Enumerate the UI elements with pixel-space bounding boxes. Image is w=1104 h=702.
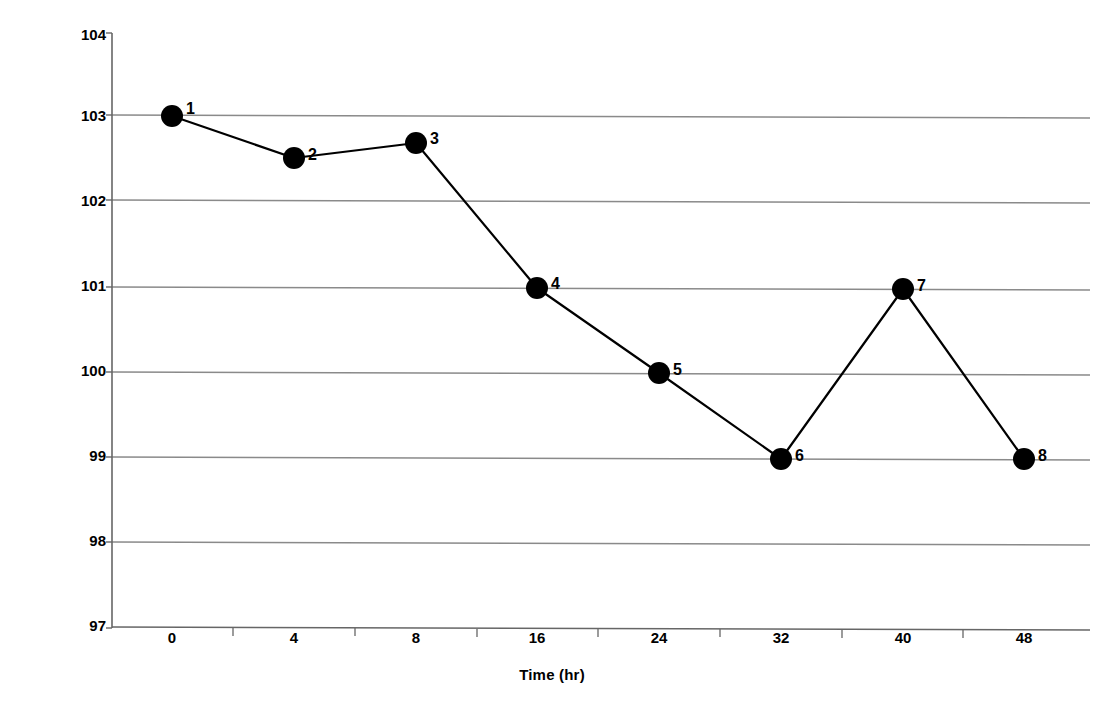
plot-area bbox=[0, 0, 1104, 702]
data-point-4[interactable] bbox=[526, 277, 548, 299]
data-point-label-3: 3 bbox=[430, 131, 439, 147]
y-axis-line bbox=[106, 33, 112, 628]
data-point-label-1: 1 bbox=[186, 101, 195, 117]
data-point-label-6: 6 bbox=[795, 448, 804, 464]
data-point-1[interactable] bbox=[161, 105, 183, 127]
data-point-2[interactable] bbox=[283, 147, 305, 169]
data-point-label-5: 5 bbox=[673, 362, 682, 378]
data-point-5[interactable] bbox=[648, 362, 670, 384]
data-point-8[interactable] bbox=[1013, 448, 1035, 470]
data-point-label-7: 7 bbox=[917, 278, 926, 294]
gridlines bbox=[112, 115, 1090, 545]
x-axis-line bbox=[112, 627, 1090, 638]
data-point-label-2: 2 bbox=[308, 147, 317, 163]
data-point-3[interactable] bbox=[405, 132, 427, 154]
chart-container: Temp (ºF) 104 103 102 101 100 99 98 97 0… bbox=[0, 0, 1104, 702]
data-point-label-4: 4 bbox=[551, 276, 560, 292]
data-point-label-8: 8 bbox=[1038, 448, 1047, 464]
data-point-7[interactable] bbox=[892, 278, 914, 300]
data-point-6[interactable] bbox=[770, 448, 792, 470]
